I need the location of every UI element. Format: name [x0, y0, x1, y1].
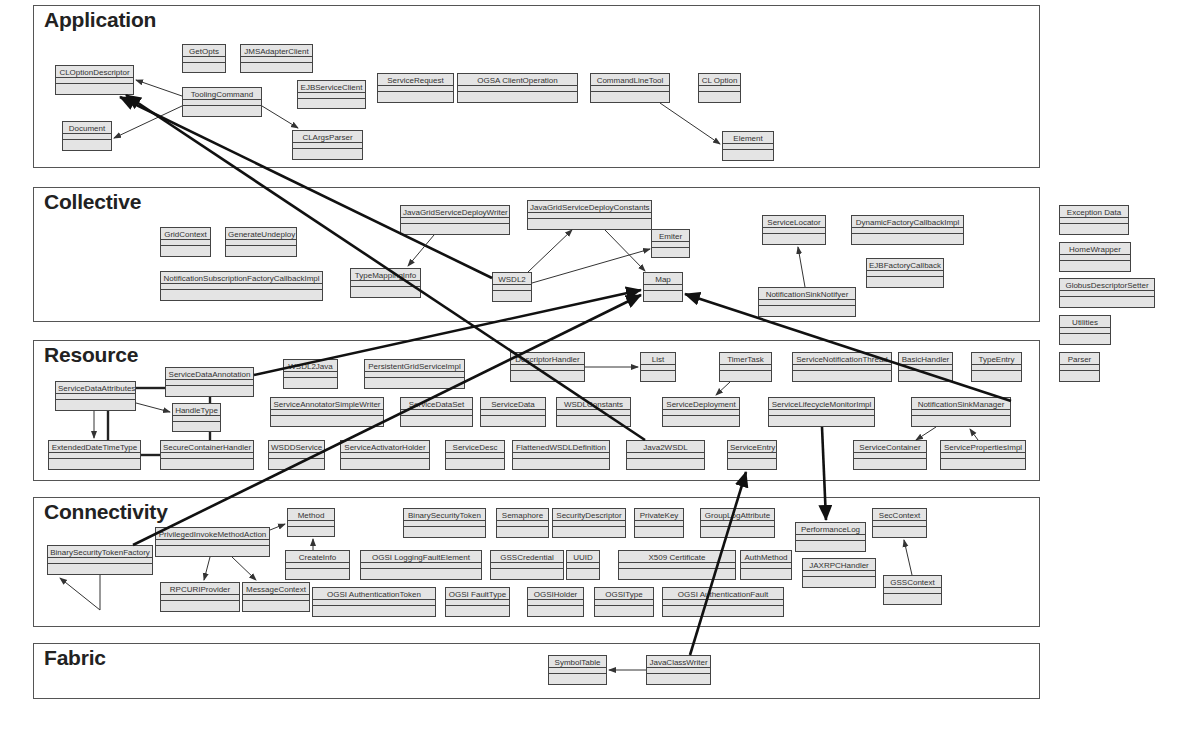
class-commandlinetool[interactable]: CommandLineTool [590, 73, 670, 103]
class-toolingcommand[interactable]: ToolingCommand [182, 87, 262, 117]
class-servicedataattributes[interactable]: ServiceDataAttributes [55, 381, 136, 411]
class-jaxrpchandler[interactable]: JAXRPCHandler [802, 558, 876, 588]
class-semaphore[interactable]: Semaphore [496, 508, 549, 538]
class-rpcuriprovider[interactable]: RPCURIProvider [160, 582, 240, 612]
class-wsdl2[interactable]: WSDL2 [492, 272, 532, 302]
class-map[interactable]: Map [643, 272, 683, 302]
class-servicenotificationthread[interactable]: ServiceNotificationThread [792, 352, 892, 382]
class-javagridservicedeployconstants[interactable]: JavaGridServiceDeployConstants [527, 200, 652, 230]
operations-compartment [699, 92, 740, 102]
class-globusdescriptorsetter[interactable]: GlobusDescriptorSetter [1059, 278, 1155, 308]
operations-compartment [1060, 224, 1128, 234]
class-servicepropertiesimpl[interactable]: ServicePropertiesImpl [940, 440, 1026, 470]
class-binarysecuritytoken[interactable]: BinarySecurityToken [403, 508, 486, 538]
class-seccontext[interactable]: SecContext [872, 508, 927, 538]
class-ogsi-authenticationtoken[interactable]: OGSI AuthenticationToken [312, 587, 436, 617]
class-servicerequest[interactable]: ServiceRequest [377, 73, 454, 103]
class-typemappinginfo[interactable]: TypeMappingInfo [350, 268, 421, 298]
class-clargsparser[interactable]: CLArgsParser [292, 130, 363, 160]
operations-compartment [941, 459, 1025, 469]
class-securecontainerhandler[interactable]: SecureContainerHandler [160, 440, 254, 470]
class-gsscontext[interactable]: GSSContext [883, 575, 942, 605]
class-notificationsubscriptionfactorycallbackimpl[interactable]: NotificationSubscriptionFactoryCallbackI… [160, 271, 323, 301]
operations-compartment [763, 234, 825, 244]
class-ejbfactorycallback[interactable]: EJBFactoryCallback [866, 258, 944, 288]
class-ogsi-authenticationfault[interactable]: OGSI AuthenticationFault [662, 587, 784, 617]
layer-title: Collective [44, 190, 141, 214]
class-homewrapper[interactable]: HomeWrapper [1059, 242, 1131, 272]
class-document[interactable]: Document [62, 121, 112, 151]
operations-compartment [884, 594, 941, 604]
class-gridcontext[interactable]: GridContext [160, 227, 211, 257]
class-servicedeployment[interactable]: ServiceDeployment [662, 397, 740, 427]
class-persistentgridserviceimpl[interactable]: PersistentGridServiceImpl [364, 359, 465, 389]
operations-compartment [298, 99, 365, 108]
class-name: CLOptionDescriptor [56, 66, 133, 78]
class-servicedata[interactable]: ServiceData [480, 397, 546, 427]
class-ogsi-loggingfaultelement[interactable]: OGSI LoggingFaultElement [360, 550, 482, 580]
class-performancelog[interactable]: PerformanceLog [795, 522, 866, 552]
class-authmethod[interactable]: AuthMethod [740, 550, 792, 580]
class-notificationsinkmanager[interactable]: NotificationSinkManager [911, 397, 1011, 427]
class-handletype[interactable]: HandleType [172, 403, 221, 432]
class-gsscredential[interactable]: GSSCredential [490, 550, 564, 580]
class-serviceannotatorsimplewriter[interactable]: ServiceAnnotatorSimpleWriter [270, 397, 384, 427]
class-securitydescriptor[interactable]: SecurityDescriptor [552, 508, 626, 538]
class-flattenedwsdldefinition[interactable]: FlattenedWSDLDefinition [512, 440, 610, 470]
class-basichandler[interactable]: BasicHandler [898, 352, 953, 382]
class-wsdlconstants[interactable]: WSDLConstants [556, 397, 631, 427]
class-descriptorhandler[interactable]: DescriptorHandler [510, 352, 585, 382]
class-method[interactable]: Method [287, 508, 335, 537]
class-uuid[interactable]: UUID [566, 550, 600, 580]
class-cloptiondescriptor[interactable]: CLOptionDescriptor [55, 65, 134, 95]
class-name: FlattenedWSDLDefinition [513, 441, 609, 453]
class-servicedataset[interactable]: ServiceDataSet [400, 397, 473, 427]
class-dynamicfactorycallbackimpl[interactable]: DynamicFactoryCallbackImpl [851, 215, 964, 245]
class-getopts[interactable]: GetOpts [182, 44, 226, 73]
class-serviceentry[interactable]: ServiceEntry [727, 440, 777, 470]
class-x509-certificate[interactable]: X509 Certificate [618, 550, 736, 580]
operations-compartment [852, 234, 963, 244]
class-generateundeploy[interactable]: GenerateUndeploy [225, 227, 297, 257]
class-servicedataannotation[interactable]: ServiceDataAnnotation [165, 367, 254, 397]
class-ogsi-faulttype[interactable]: OGSI FaultType [445, 587, 510, 617]
class-name: TypeEntry [972, 353, 1021, 365]
class-binarysecuritytokenfactory[interactable]: BinarySecurityTokenFactory [47, 545, 153, 575]
class-name: GlobusDescriptorSetter [1060, 279, 1154, 291]
class-extendeddatetimetype[interactable]: ExtendedDateTimeType [48, 440, 141, 470]
class-serviceactivatorholder[interactable]: ServiceActivatorHolder [340, 440, 430, 470]
class-symboltable[interactable]: SymbolTable [548, 655, 607, 685]
class-messagecontext[interactable]: MessageContext [242, 582, 310, 612]
class-grouplogattribute[interactable]: GroupLogAttribute [700, 508, 775, 538]
class-name: GetOpts [183, 45, 225, 57]
class-utilities[interactable]: Utilities [1059, 315, 1111, 345]
class-ogsa-clientoperation[interactable]: OGSA ClientOperation [457, 73, 578, 103]
class-ogsitype[interactable]: OGSIType [594, 587, 654, 617]
class-privilegedinvokemethodaction[interactable]: PrivilegedInvokeMethodAction [155, 527, 270, 557]
class-typeentry[interactable]: TypeEntry [971, 352, 1022, 382]
class-name: JavaGridServiceDeployConstants [528, 201, 651, 213]
class-servicelocator[interactable]: ServiceLocator [762, 215, 826, 245]
class-ejbserviceclient[interactable]: EJBServiceClient [297, 80, 366, 109]
class-privatekey[interactable]: PrivateKey [634, 508, 684, 538]
class-emiter[interactable]: Emiter [651, 229, 690, 258]
class-java2wsdl[interactable]: Java2WSDL [626, 440, 705, 470]
class-servicelifecyclemonitorimpl[interactable]: ServiceLifecycleMonitorImpl [768, 397, 875, 427]
class-exception-data[interactable]: Exception Data [1059, 205, 1129, 235]
class-servicecontainer[interactable]: ServiceContainer [853, 440, 927, 470]
class-javaclasswriter[interactable]: JavaClassWriter [646, 655, 711, 685]
class-servicedesc[interactable]: ServiceDesc [445, 440, 505, 470]
class-createinfo[interactable]: CreateInfo [285, 550, 350, 580]
class-javagridservicedeploywriter[interactable]: JavaGridServiceDeployWriter [400, 205, 510, 235]
class-wsdl2java[interactable]: WSDL2Java [283, 359, 338, 389]
class-timertask[interactable]: TimerTask [719, 352, 772, 382]
class-ogsiholder[interactable]: OGSIHolder [527, 587, 584, 617]
class-cl-option[interactable]: CL Option [698, 73, 741, 103]
class-notificationsinknotifyer[interactable]: NotificationSinkNotifyer [758, 287, 856, 317]
class-list[interactable]: List [640, 352, 676, 382]
class-wsddservice[interactable]: WSDDService [268, 440, 325, 470]
class-element[interactable]: Element [722, 131, 774, 161]
class-jmsadapterclient[interactable]: JMSAdapterClient [240, 44, 313, 73]
class-name: BinarySecurityToken [404, 509, 485, 521]
class-parser[interactable]: Parser [1059, 352, 1100, 382]
